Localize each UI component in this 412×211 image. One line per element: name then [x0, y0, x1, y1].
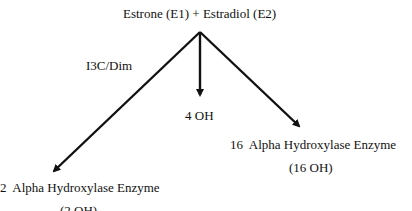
- target-center-label: 4 OH: [185, 108, 214, 123]
- target-right-sublabel: (16 OH): [289, 160, 333, 175]
- target-left-sublabel: (2 OH): [60, 203, 97, 211]
- arrow-right: [200, 32, 299, 126]
- edge-label-left: I3C/Dim: [86, 58, 132, 73]
- target-right-label: 16 Alpha Hydroxylase Enzyme: [230, 137, 396, 152]
- target-left-label: 2 Alpha Hydroxylase Enzyme: [0, 180, 160, 195]
- estrogen-metabolism-diagram: Estrone (E1) + Estradiol (E2) I3C/Dim 4 …: [0, 0, 412, 211]
- source-label: Estrone (E1) + Estradiol (E2): [123, 6, 276, 21]
- arrow-left: [54, 32, 200, 171]
